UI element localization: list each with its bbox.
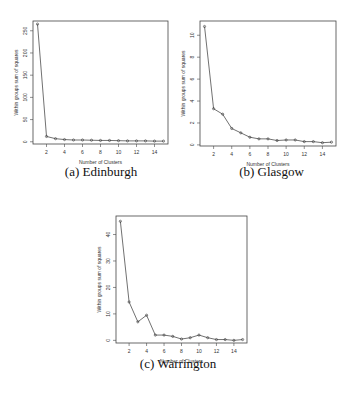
plot-frame [200,21,336,146]
caption-glasgow: (b) Glasgow [175,164,351,180]
x-tick-label: 12 [214,348,220,354]
x-tick-label: 4 [63,149,66,155]
x-tick-label: 2 [212,151,215,157]
y-tick-label: 20 [105,284,111,290]
caption-warrington: (c) Warrington [80,356,276,372]
y-axis-label: Within groups sum of squares [96,246,102,313]
y-tick-label: 0 [189,143,195,146]
x-tick-label: 10 [196,348,202,354]
plot-frame [33,21,168,144]
y-tick-label: 2 [189,121,195,124]
x-tick-label: 14 [320,151,326,157]
y-tick-label: 0 [22,140,28,143]
y-tick-label: 8 [189,56,195,59]
x-tick-label: 14 [231,348,237,354]
y-tick-label: 100 [22,93,28,102]
y-tick-label: 50 [22,117,28,123]
x-tick-label: 12 [134,149,140,155]
x-tick-label: 8 [99,149,102,155]
x-tick-label: 12 [301,151,307,157]
plot-frame [116,216,247,343]
x-tick-label: 4 [230,151,233,157]
x-tick-label: 4 [145,348,148,354]
y-tick-label: 150 [22,71,28,80]
x-tick-label: 6 [163,348,166,354]
x-tick-label: 14 [152,149,158,155]
series-line [205,26,332,142]
y-tick-label: 4 [189,99,195,102]
y-tick-label: 200 [22,49,28,58]
panel-edinburgh: 2468101214050100150200250Number of Clust… [0,0,175,185]
series-line [38,24,164,141]
y-tick-label: 10 [189,32,195,38]
y-tick-label: 0 [105,339,111,342]
y-tick-label: 6 [189,78,195,81]
y-tick-label: 250 [22,26,28,35]
y-axis-label: Within groups sum of squares [180,50,186,117]
x-tick-label: 2 [45,149,48,155]
caption-edinburgh: (a) Edinburgh [0,164,202,180]
y-axis-label: Within groups sum of squares [13,49,19,116]
x-tick-label: 8 [267,151,270,157]
x-tick-label: 8 [180,348,183,354]
y-tick-label: 30 [105,258,111,264]
x-tick-label: 10 [283,151,289,157]
elbow-chart-edinburgh: 2468101214050100150200250Number of Clust… [0,0,175,170]
panel-glasgow: 24681012140246810Number of ClustersWithi… [175,0,351,185]
x-tick-label: 2 [128,348,131,354]
elbow-chart-warrington: 2468101214010203040Number of ClustersWit… [80,195,270,365]
panel-warrington: 2468101214010203040Number of ClustersWit… [80,195,270,399]
x-tick-label: 10 [116,149,122,155]
elbow-chart-glasgow: 24681012140246810Number of ClustersWithi… [175,0,351,170]
x-tick-label: 6 [81,149,84,155]
y-tick-label: 40 [105,232,111,238]
y-tick-label: 10 [105,311,111,317]
x-tick-label: 6 [248,151,251,157]
